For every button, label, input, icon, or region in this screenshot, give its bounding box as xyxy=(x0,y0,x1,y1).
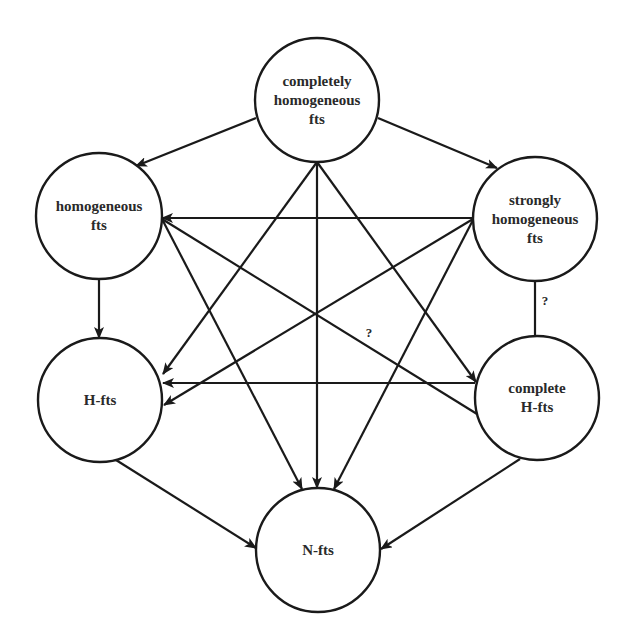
node-hfts-label: H-fts xyxy=(84,391,117,410)
node-label-line: completely xyxy=(274,72,361,91)
edge-completely-to-strongly xyxy=(378,118,497,168)
edge-question-label: ? xyxy=(366,325,373,341)
node-label-line: complete xyxy=(508,379,565,398)
node-label-line: fts xyxy=(274,110,361,129)
node-label-line: fts xyxy=(56,216,143,235)
node-label-line: homogeneous xyxy=(274,91,361,110)
node-homogeneous-label: homogeneousfts xyxy=(56,197,143,235)
node-label-line: H-fts xyxy=(84,391,117,410)
edges-layer xyxy=(99,118,535,549)
node-label-line: strongly xyxy=(492,191,579,210)
node-complete-hfts-label: completeH-fts xyxy=(508,379,565,417)
edge-completely-to-complete-hfts xyxy=(317,162,476,382)
node-nfts-label: N-fts xyxy=(302,541,334,560)
edge-question-label: ? xyxy=(542,293,549,309)
edge-complete-hfts-to-nfts xyxy=(381,459,520,549)
node-label-line: H-fts xyxy=(508,398,565,417)
edge-homogeneous-to-nfts xyxy=(162,219,302,489)
node-strongly-label: stronglyhomogeneousfts xyxy=(492,191,579,248)
node-completely-label: completelyhomogeneousfts xyxy=(274,72,361,129)
node-label-line: homogeneous xyxy=(492,210,579,229)
node-label-line: N-fts xyxy=(302,541,334,560)
edge-completely-to-homogeneous xyxy=(136,118,256,166)
edge-hfts-to-nfts xyxy=(116,460,256,548)
node-label-line: fts xyxy=(492,229,579,248)
node-label-line: homogeneous xyxy=(56,197,143,216)
